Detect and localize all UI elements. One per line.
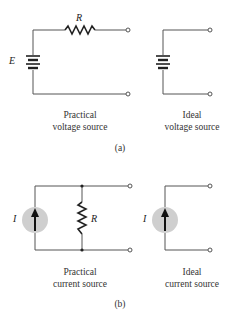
title-line-2: current source <box>40 278 120 290</box>
ideal-voltage-source-title: Ideal voltage source <box>152 109 232 133</box>
resistor-label: R <box>91 213 97 224</box>
title-line-2: voltage source <box>152 121 232 133</box>
practical-current-source-title: Practical current source <box>40 266 120 290</box>
terminal-bottom <box>126 92 130 96</box>
junction-dot <box>80 248 83 251</box>
title-line-1: Ideal <box>152 109 232 121</box>
practical-current-source-circuit <box>35 184 132 252</box>
panel-b-caption: (b) <box>105 298 135 310</box>
terminal-bottom <box>128 248 132 252</box>
junction-dot <box>80 184 83 187</box>
terminal-top <box>128 184 132 188</box>
title-line-2: current source <box>152 278 232 290</box>
title-line-1: Ideal <box>152 266 232 278</box>
title-line-1: Practical <box>40 109 120 121</box>
source-label: I <box>143 213 146 224</box>
practical-voltage-source-circuit <box>33 26 130 96</box>
resistor-symbol <box>65 26 95 34</box>
terminal-bottom <box>208 92 212 96</box>
ideal-current-source-title: Ideal current source <box>152 266 232 290</box>
title-line-2: voltage source <box>40 121 120 133</box>
terminal-top <box>208 28 212 32</box>
terminal-top <box>126 28 130 32</box>
ideal-voltage-source-circuit <box>163 28 212 96</box>
resistor-symbol <box>78 202 86 234</box>
resistor-label: R <box>76 12 82 23</box>
source-label: I <box>13 213 16 224</box>
source-label: E <box>9 55 15 66</box>
title-line-1: Practical <box>40 266 120 278</box>
battery-symbol <box>26 56 40 68</box>
current-source-symbol <box>22 207 48 233</box>
practical-voltage-source-title: Practical voltage source <box>40 109 120 133</box>
terminal-bottom <box>208 248 212 252</box>
battery-symbol <box>156 56 170 68</box>
panel-a-caption: (a) <box>105 142 135 154</box>
current-source-symbol <box>152 207 178 233</box>
terminal-top <box>208 184 212 188</box>
